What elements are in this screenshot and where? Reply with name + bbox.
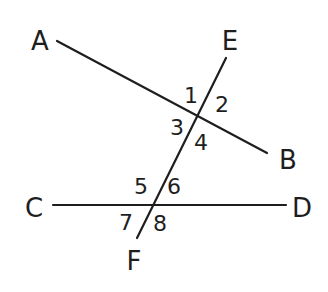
line-ab <box>57 41 267 153</box>
point-label-a: A <box>31 26 49 56</box>
angle-labels-group: 12345678 <box>119 83 229 236</box>
geometry-diagram: ABCDEF 12345678 <box>0 0 328 292</box>
angle-label-3: 3 <box>170 115 184 140</box>
angle-label-7: 7 <box>119 210 133 235</box>
point-label-e: E <box>222 26 238 56</box>
angle-label-2: 2 <box>215 92 229 117</box>
point-label-c: C <box>25 193 43 223</box>
angle-label-4: 4 <box>194 130 208 155</box>
point-label-d: D <box>292 193 312 223</box>
point-label-f: F <box>127 246 142 276</box>
angle-label-5: 5 <box>134 174 148 199</box>
angle-label-6: 6 <box>167 174 181 199</box>
diagram-svg: ABCDEF 12345678 <box>0 0 328 292</box>
line-ef <box>137 58 226 238</box>
point-label-b: B <box>279 145 297 175</box>
angle-label-1: 1 <box>184 83 198 108</box>
point-labels-group: ABCDEF <box>25 26 312 276</box>
angle-label-8: 8 <box>153 211 167 236</box>
